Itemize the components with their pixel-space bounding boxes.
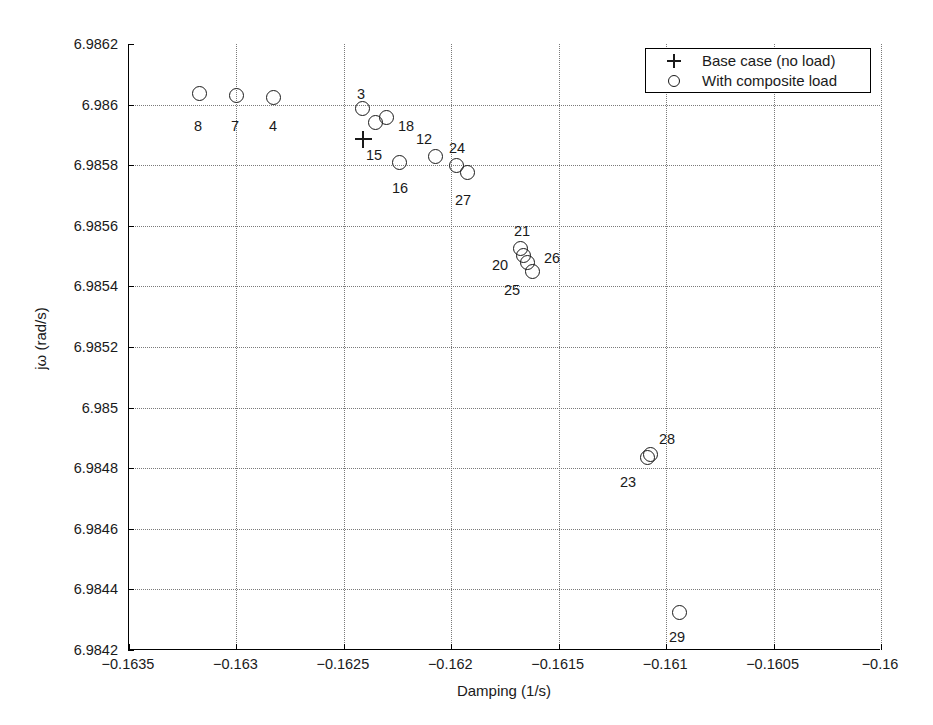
point-label-21: 21 bbox=[514, 223, 530, 239]
point-label-20: 20 bbox=[492, 257, 508, 273]
chart-legend: Base case (no load) With composite load bbox=[645, 48, 871, 93]
gridline-horizontal bbox=[129, 226, 880, 227]
point-label-16: 16 bbox=[392, 180, 408, 196]
point-label-28: 28 bbox=[659, 431, 675, 447]
x-tick bbox=[559, 644, 560, 650]
gridline-vertical bbox=[559, 44, 560, 649]
circle-marker bbox=[192, 86, 207, 101]
point-label-12: 12 bbox=[416, 131, 432, 147]
x-tick bbox=[236, 644, 237, 650]
point-label-7: 7 bbox=[231, 118, 239, 134]
circle-marker bbox=[428, 149, 443, 164]
point-label-8: 8 bbox=[194, 118, 202, 134]
point-label-15: 15 bbox=[366, 147, 382, 163]
circle-marker bbox=[672, 605, 687, 620]
y-tick-label: 6.9856 bbox=[0, 218, 118, 234]
gridline-horizontal bbox=[129, 105, 880, 106]
x-tick-label: −0.163 bbox=[213, 656, 258, 672]
gridline-horizontal bbox=[129, 468, 880, 469]
x-axis-title: Damping (1/s) bbox=[128, 682, 880, 699]
y-tick-label: 6.986 bbox=[0, 97, 118, 113]
y-tick-label: 6.9842 bbox=[0, 642, 118, 658]
y-axis-title: jω (rad/s) bbox=[32, 269, 49, 409]
x-tick bbox=[774, 644, 775, 650]
legend-label-composite-load: With composite load bbox=[702, 72, 837, 89]
gridline-vertical bbox=[451, 44, 452, 649]
point-label-4: 4 bbox=[269, 118, 277, 134]
gridline-vertical bbox=[236, 44, 237, 649]
point-label-27: 27 bbox=[455, 192, 471, 208]
gridline-vertical bbox=[881, 44, 882, 649]
gridline-vertical bbox=[774, 44, 775, 649]
y-tick bbox=[128, 105, 134, 106]
y-tick bbox=[128, 44, 134, 45]
y-tick-label: 6.9862 bbox=[0, 36, 118, 52]
gridline-vertical bbox=[344, 44, 345, 649]
y-tick-label: 6.9848 bbox=[0, 460, 118, 476]
gridline-horizontal bbox=[129, 347, 880, 348]
point-label-24: 24 bbox=[449, 140, 465, 156]
plus-marker bbox=[355, 131, 372, 148]
circle-marker bbox=[368, 115, 383, 130]
circle-marker bbox=[229, 88, 244, 103]
y-tick bbox=[128, 226, 134, 227]
y-tick bbox=[128, 529, 134, 530]
gridline-vertical bbox=[666, 44, 667, 649]
x-tick bbox=[344, 644, 345, 650]
point-label-25: 25 bbox=[504, 282, 520, 298]
plus-marker-icon bbox=[646, 50, 702, 71]
x-tick-label: −0.162 bbox=[428, 656, 473, 672]
point-label-23: 23 bbox=[620, 474, 636, 490]
y-tick-label: 6.985 bbox=[0, 400, 118, 416]
x-tick-label: −0.161 bbox=[643, 656, 688, 672]
point-label-26: 26 bbox=[544, 250, 560, 266]
y-tick-label: 6.9858 bbox=[0, 157, 118, 173]
scatter-plot-figure: 158743181612242721202625232829 −0.1635−0… bbox=[0, 0, 933, 725]
point-label-18: 18 bbox=[398, 118, 414, 134]
circle-marker bbox=[643, 447, 658, 462]
y-tick bbox=[128, 408, 134, 409]
y-tick-label: 6.9846 bbox=[0, 521, 118, 537]
y-tick bbox=[128, 286, 134, 287]
y-tick-label: 6.9844 bbox=[0, 581, 118, 597]
plot-area: 158743181612242721202625232829 bbox=[128, 44, 880, 650]
x-tick-label: −0.1615 bbox=[531, 656, 584, 672]
x-tick-label: −0.16 bbox=[862, 656, 899, 672]
x-tick bbox=[666, 644, 667, 650]
y-tick bbox=[128, 165, 134, 166]
circle-marker bbox=[266, 90, 281, 105]
circle-marker bbox=[525, 264, 540, 279]
gridline-horizontal bbox=[129, 589, 880, 590]
x-tick-label: −0.1635 bbox=[102, 656, 155, 672]
gridline-horizontal bbox=[129, 529, 880, 530]
x-tick bbox=[451, 644, 452, 650]
y-tick bbox=[128, 468, 134, 469]
y-tick-label: 6.9852 bbox=[0, 339, 118, 355]
circle-marker bbox=[355, 101, 370, 116]
y-tick-label: 6.9854 bbox=[0, 278, 118, 294]
legend-entry-composite-load: With composite load bbox=[646, 70, 870, 91]
circle-marker-icon bbox=[646, 70, 702, 91]
circle-marker bbox=[392, 155, 407, 170]
point-label-29: 29 bbox=[669, 629, 685, 645]
legend-label-base-case: Base case (no load) bbox=[702, 52, 835, 69]
y-tick bbox=[128, 650, 134, 651]
x-tick bbox=[881, 644, 882, 650]
y-tick bbox=[128, 589, 134, 590]
x-tick-label: −0.1625 bbox=[316, 656, 369, 672]
y-tick bbox=[128, 347, 134, 348]
gridline-horizontal bbox=[129, 165, 880, 166]
circle-marker bbox=[460, 165, 475, 180]
legend-entry-base-case: Base case (no load) bbox=[646, 50, 870, 71]
x-tick-label: −0.1605 bbox=[746, 656, 799, 672]
point-label-3: 3 bbox=[357, 86, 365, 102]
gridline-horizontal bbox=[129, 408, 880, 409]
